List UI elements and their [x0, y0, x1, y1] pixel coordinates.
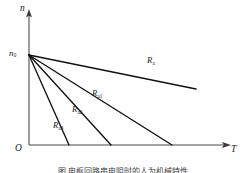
- curve-label-Ra1-subscript: a1: [97, 93, 102, 99]
- curve-label-Ra3: Ra3: [53, 121, 63, 130]
- speed-axis-label: n: [20, 4, 25, 14]
- curve-label-Ra1: Ra1: [92, 89, 102, 98]
- curve-Ra: [29, 55, 196, 89]
- no-load-speed-label: n0: [9, 49, 16, 58]
- curve-label-Ra-subscript: a: [152, 60, 154, 66]
- origin-label: O: [15, 144, 22, 154]
- figure-caption: 图 电枢回路串电阻时的人为机械特性: [0, 165, 245, 173]
- curve-label-Ra2-subscript: a2: [77, 109, 82, 115]
- curve-label-Ra2: Ra2: [72, 105, 82, 114]
- characteristic-curve-plot: [0, 0, 245, 173]
- curve-label-Ra: Ra: [147, 56, 155, 65]
- no-load-speed-subscript: 0: [14, 52, 17, 58]
- figure-container: n n0 O T Ra Ra1 Ra2 Ra3 图 电枢回路串电阻时的人为机械特…: [0, 0, 245, 173]
- curve-Ra2: [29, 55, 111, 145]
- torque-axis-label: T: [231, 145, 236, 155]
- no-load-speed-base: n: [9, 48, 14, 58]
- curve-Ra3: [29, 55, 69, 145]
- curve-Ra1: [29, 55, 172, 145]
- curve-label-Ra3-subscript: a3: [58, 125, 63, 131]
